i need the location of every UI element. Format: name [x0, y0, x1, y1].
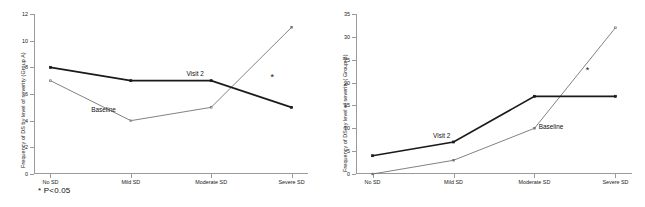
plot-area-group-b: 05101520253035 No SDMild SDModerate SDSe…	[356, 14, 632, 174]
series-label-baseline: Baseline	[539, 123, 564, 130]
data-point-marker	[453, 159, 455, 161]
chart-panel-group-a: Frequency of DS by level of severity (Gr…	[0, 0, 322, 207]
x-tick-mark	[50, 174, 51, 178]
x-tick-mark	[454, 174, 455, 178]
y-tick-label: 10	[22, 38, 28, 44]
x-tick-label: Moderate SD	[519, 179, 551, 185]
x-tick-mark	[131, 174, 132, 178]
y-tick-mark	[352, 174, 356, 175]
x-tick-mark	[534, 174, 535, 178]
y-tick-label: 2	[25, 144, 28, 150]
y-tick-label: 30	[344, 34, 350, 40]
significance-star: *	[586, 65, 590, 74]
x-tick-mark	[615, 174, 616, 178]
data-point-marker	[372, 173, 374, 175]
y-tick-label: 12	[22, 11, 28, 17]
series-label-visit-2: Visit 2	[186, 69, 203, 76]
x-tick-mark	[292, 174, 293, 178]
series-lines-group-a	[34, 14, 308, 174]
series-line-visit-2	[50, 67, 291, 107]
data-point-marker	[130, 80, 132, 82]
data-point-marker	[614, 95, 616, 97]
x-tick-label: Moderate SD	[195, 179, 227, 185]
y-tick-label: 25	[344, 57, 350, 63]
p-value-footnote: * P<0.05	[38, 186, 71, 195]
y-tick-mark	[30, 174, 34, 175]
data-point-marker	[210, 80, 212, 82]
data-point-marker	[533, 95, 535, 97]
y-tick-label: 4	[25, 118, 28, 124]
series-line-baseline	[373, 28, 616, 174]
x-tick-label: Mild SD	[121, 179, 140, 185]
y-tick-label: 0	[25, 171, 28, 177]
data-point-marker	[210, 107, 212, 109]
y-tick-label: 15	[344, 102, 350, 108]
y-tick-label: 5	[347, 148, 350, 154]
y-tick-label: 10	[344, 125, 350, 131]
series-label-visit-2: Visit 2	[433, 131, 450, 138]
data-point-marker	[453, 141, 455, 143]
data-point-marker	[291, 106, 293, 108]
data-point-marker	[291, 27, 293, 29]
x-tick-label: No SD	[365, 179, 381, 185]
series-label-baseline: Baseline	[91, 105, 116, 112]
x-tick-mark	[211, 174, 212, 178]
y-tick-label: 20	[344, 80, 350, 86]
data-point-marker	[372, 155, 374, 157]
chart-panel-group-b: Frequency of DS by level of severity ( G…	[322, 0, 645, 207]
x-tick-label: Severe SD	[602, 179, 628, 185]
plot-area-group-a: 024681012 No SDMild SDModerate SDSevere …	[34, 14, 308, 174]
series-line-visit-2	[373, 96, 616, 155]
two-panel-line-chart-figure: Frequency of DS by level of severity (Gr…	[0, 0, 645, 207]
y-tick-label: 6	[25, 91, 28, 97]
data-point-marker	[534, 127, 536, 129]
y-tick-label: 35	[344, 11, 350, 17]
data-point-marker	[50, 80, 52, 82]
data-point-marker	[615, 27, 617, 29]
x-tick-label: Severe SD	[279, 179, 305, 185]
x-tick-label: No SD	[42, 179, 58, 185]
data-point-marker	[130, 120, 132, 122]
data-point-marker	[49, 66, 51, 68]
y-axis-title-group-b: Frequency of DS by level of severity ( G…	[342, 54, 348, 172]
significance-star: *	[271, 72, 275, 81]
y-tick-label: 8	[25, 64, 28, 70]
y-tick-label: 0	[347, 171, 350, 177]
x-tick-label: Mild SD	[444, 179, 463, 185]
series-lines-group-b	[356, 14, 632, 174]
